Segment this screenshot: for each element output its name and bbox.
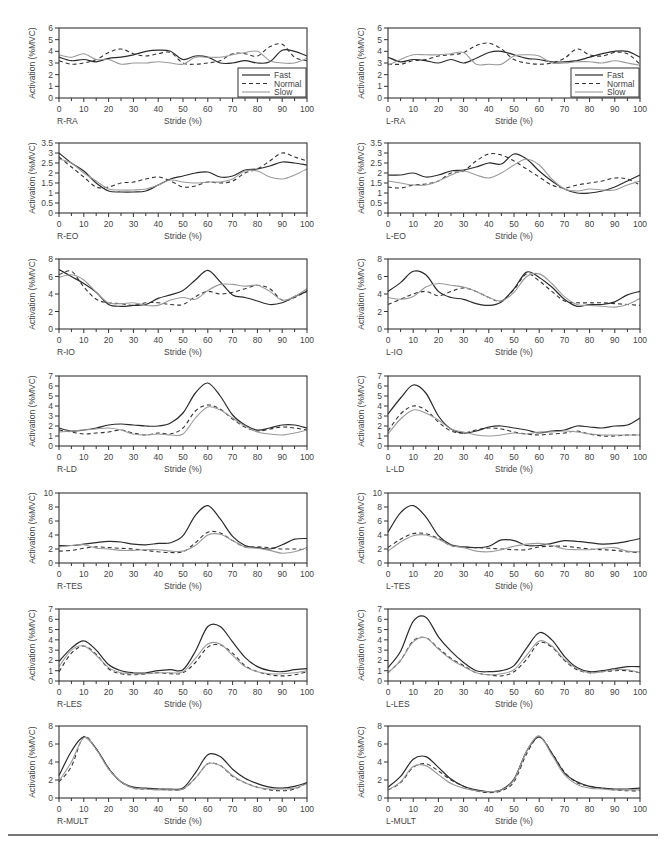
x-tick-label: 20 — [104, 804, 114, 814]
y-tick-label: 0 — [48, 208, 53, 218]
series-line-normal — [59, 736, 307, 791]
x-tick-label: 20 — [104, 687, 114, 697]
x-tick-label: 10 — [79, 569, 89, 579]
x-tick-label: 10 — [408, 335, 418, 345]
x-axis-label: Stride (%) — [164, 464, 202, 474]
panel-l-io: Activation (%MVC)02468010203040506070809… — [356, 254, 647, 357]
y-tick-label: 7 — [377, 371, 382, 381]
x-tick-label: 90 — [610, 687, 620, 697]
panel-title: L-IO — [386, 347, 403, 357]
x-tick-label: 50 — [178, 104, 188, 114]
y-tick-label: 0.5 — [370, 198, 382, 208]
x-tick-label: 100 — [300, 452, 314, 462]
panel-r-ld: Activation (%MVC)01234567010203040506070… — [27, 371, 314, 474]
x-tick-label: 100 — [633, 219, 647, 229]
x-tick-label: 70 — [560, 335, 570, 345]
series-line-fast — [59, 270, 307, 307]
x-tick-label: 60 — [203, 452, 213, 462]
x-tick-label: 50 — [509, 569, 519, 579]
series-line-normal — [59, 405, 307, 435]
x-tick-label: 80 — [253, 452, 263, 462]
x-tick-label: 70 — [228, 219, 238, 229]
y-tick-label: 1 — [48, 666, 53, 676]
y-tick-label: 7 — [48, 604, 53, 614]
x-tick-label: 30 — [459, 452, 469, 462]
y-tick-label: 5 — [48, 35, 53, 45]
x-tick-label: 90 — [610, 219, 620, 229]
x-tick-label: 100 — [300, 335, 314, 345]
x-tick-label: 20 — [434, 804, 444, 814]
series-line-fast — [388, 616, 640, 672]
y-axis-label: Activation (%MVC) — [27, 27, 37, 98]
panel-title: L-EO — [386, 231, 406, 241]
x-tick-label: 40 — [153, 335, 163, 345]
x-tick-label: 40 — [153, 569, 163, 579]
x-tick-label: 100 — [633, 452, 647, 462]
y-tick-label: 6 — [377, 381, 382, 391]
panel-l-mult: Activation (%MVC)02468010203040506070809… — [356, 721, 647, 826]
y-tick-label: 0 — [48, 558, 53, 568]
y-tick-label: 2.5 — [370, 158, 382, 168]
panel-l-les: Activation (%MVC)01234567010203040506070… — [356, 604, 647, 709]
y-axis-label: Activation (%MVC) — [356, 142, 366, 213]
x-tick-label: 80 — [585, 335, 595, 345]
y-tick-label: 2 — [377, 70, 382, 80]
x-tick-label: 90 — [277, 687, 287, 697]
bottom-divider — [8, 834, 658, 836]
panel-title: R-IO — [57, 347, 75, 357]
series-line-slow — [59, 737, 307, 790]
y-tick-label: 0 — [377, 676, 382, 686]
x-tick-label: 50 — [509, 335, 519, 345]
x-tick-label: 80 — [585, 452, 595, 462]
x-tick-label: 40 — [484, 335, 494, 345]
series-line-normal — [388, 533, 640, 553]
y-tick-label: 0 — [377, 324, 382, 334]
panel-title: R-LES — [57, 699, 82, 709]
y-tick-label: 6 — [377, 739, 382, 749]
x-axis-label: Stride (%) — [164, 816, 202, 826]
x-tick-label: 10 — [408, 452, 418, 462]
y-tick-label: 8 — [377, 502, 382, 512]
legend: FastNormalSlow — [238, 68, 306, 97]
y-tick-label: 0.5 — [41, 198, 53, 208]
chart-grid: Activation (%MVC)01234560102030405060708… — [0, 0, 668, 846]
y-tick-label: 2 — [48, 544, 53, 554]
x-tick-label: 40 — [153, 104, 163, 114]
y-axis-label: Activation (%MVC) — [356, 27, 366, 98]
x-tick-label: 40 — [153, 452, 163, 462]
y-tick-label: 3 — [48, 148, 53, 158]
legend: FastNormalSlow — [571, 68, 639, 97]
series-line-slow — [59, 407, 307, 436]
y-tick-label: 4 — [377, 635, 382, 645]
x-axis-label: Stride (%) — [164, 699, 202, 709]
x-tick-label: 0 — [57, 452, 62, 462]
x-tick-label: 30 — [129, 687, 139, 697]
panel-r-io: Activation (%MVC)02468010203040506070809… — [27, 254, 314, 357]
panel-title: L-MULT — [386, 816, 416, 826]
x-tick-label: 10 — [408, 219, 418, 229]
x-tick-label: 80 — [253, 335, 263, 345]
y-tick-label: 3 — [377, 645, 382, 655]
y-tick-label: 7 — [48, 371, 53, 381]
panel-title: L-TES — [386, 581, 410, 591]
x-tick-label: 100 — [633, 687, 647, 697]
x-tick-label: 90 — [277, 569, 287, 579]
x-tick-label: 60 — [203, 687, 213, 697]
x-tick-label: 30 — [459, 804, 469, 814]
x-tick-label: 40 — [484, 219, 494, 229]
x-axis-label: Stride (%) — [164, 347, 202, 357]
panel-title: L-RA — [386, 116, 406, 126]
x-tick-label: 40 — [153, 804, 163, 814]
x-tick-label: 90 — [610, 804, 620, 814]
x-tick-label: 0 — [386, 219, 391, 229]
series-line-fast — [388, 737, 640, 792]
y-tick-label: 3 — [377, 148, 382, 158]
x-tick-label: 80 — [253, 219, 263, 229]
x-tick-label: 30 — [129, 335, 139, 345]
plot-frame — [59, 376, 307, 446]
x-tick-label: 10 — [79, 452, 89, 462]
y-tick-label: 4 — [48, 401, 53, 411]
x-tick-label: 90 — [277, 104, 287, 114]
x-tick-label: 70 — [560, 452, 570, 462]
y-tick-label: 6 — [377, 614, 382, 624]
